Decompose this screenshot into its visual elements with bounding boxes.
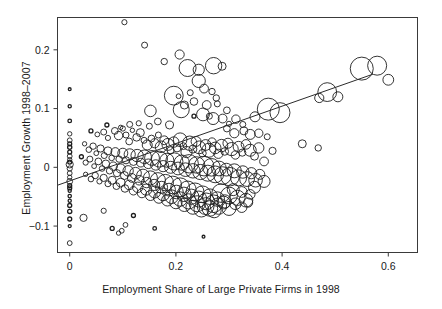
data-point (145, 105, 157, 117)
data-point (87, 156, 93, 162)
data-point (68, 209, 72, 213)
data-point (101, 153, 107, 159)
data-point (270, 103, 290, 123)
data-point (383, 74, 394, 85)
data-point (244, 198, 253, 207)
data-point (121, 185, 129, 193)
data-point (154, 118, 161, 125)
y-axis-title: Employment Growth 1998–2007 (20, 28, 32, 248)
data-point (67, 241, 72, 246)
data-point (213, 95, 219, 101)
y-axis-ticks: −0.100.10.2 (29, 44, 58, 232)
data-point (207, 113, 219, 125)
axis-tick-label: 0.6 (381, 260, 396, 272)
data-point (315, 145, 321, 151)
data-point (68, 204, 72, 208)
data-point (142, 42, 148, 48)
data-point (116, 231, 120, 235)
data-point (136, 121, 141, 126)
data-point (82, 142, 86, 146)
data-point (68, 145, 72, 149)
data-point (254, 143, 264, 153)
data-point (101, 129, 107, 135)
data-point (102, 160, 110, 168)
data-point (68, 225, 71, 228)
data-point (146, 123, 152, 129)
data-point (119, 228, 124, 233)
data-point (68, 217, 72, 221)
data-point (79, 155, 83, 159)
axis-tick-label: 0.2 (35, 44, 50, 56)
data-point (190, 98, 198, 106)
data-point (245, 129, 255, 139)
data-point (240, 121, 246, 127)
x-axis-title: Employment Share of Large Private Firms … (0, 283, 442, 295)
data-point (214, 101, 220, 107)
data-point (68, 88, 71, 91)
data-point (68, 105, 71, 108)
data-point (68, 199, 71, 202)
data-point (131, 213, 135, 217)
data-point (68, 132, 72, 136)
data-point (160, 136, 169, 145)
data-point (80, 214, 87, 221)
data-point (209, 88, 215, 94)
data-point (202, 235, 205, 238)
data-point (255, 129, 263, 137)
data-points-layer (66, 20, 394, 246)
data-point (68, 119, 72, 123)
data-point (123, 222, 128, 227)
data-point (223, 107, 230, 114)
plot-frame (58, 18, 418, 253)
data-point (101, 208, 106, 213)
data-point (149, 186, 161, 198)
data-point (123, 132, 129, 138)
data-point (126, 138, 133, 145)
data-point (257, 98, 279, 120)
data-point (255, 169, 265, 179)
data-point (100, 174, 107, 181)
data-point (95, 132, 100, 137)
data-point (175, 50, 184, 59)
data-point (90, 143, 96, 149)
data-point (187, 90, 193, 96)
data-point (97, 145, 104, 152)
x-axis-ticks: 00.20.40.6 (67, 253, 396, 272)
data-point (350, 57, 373, 80)
data-point (127, 121, 133, 127)
data-point (192, 74, 205, 87)
data-point (105, 135, 110, 140)
data-point (92, 172, 98, 178)
axis-tick-label: 0.2 (169, 260, 184, 272)
data-point (68, 194, 71, 197)
data-point (92, 164, 97, 169)
data-point (230, 129, 239, 138)
axis-tick-label: 0.1 (35, 102, 50, 114)
axis-tick-label: 0 (44, 161, 50, 173)
data-point (315, 93, 324, 102)
data-point (105, 123, 109, 127)
data-point (89, 129, 93, 133)
data-point (193, 64, 204, 75)
data-point (173, 102, 189, 118)
data-point (333, 92, 343, 102)
data-point (153, 227, 157, 231)
data-point (110, 226, 114, 230)
data-point (114, 131, 122, 139)
data-point (264, 134, 270, 140)
data-point (205, 57, 221, 73)
axis-tick-label: 0 (67, 260, 73, 272)
data-point (122, 20, 127, 25)
scatter-plot-figure: 00.20.40.6 −0.100.10.2 Employment Share … (0, 0, 442, 309)
axis-tick-label: 0.4 (275, 260, 290, 272)
data-point (192, 114, 196, 118)
data-point (298, 140, 306, 148)
data-point (67, 166, 72, 171)
data-point (95, 158, 102, 165)
data-point (130, 128, 134, 132)
data-point (166, 121, 174, 129)
data-point (161, 58, 167, 64)
data-point (269, 147, 276, 154)
data-point (97, 179, 102, 184)
data-point (260, 157, 269, 166)
